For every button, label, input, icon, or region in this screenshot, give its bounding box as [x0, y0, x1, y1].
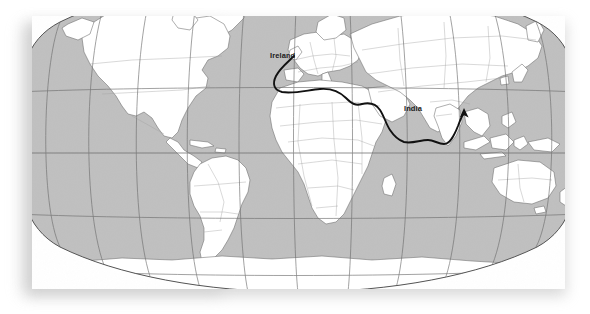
map-card: Ireland India — [32, 16, 565, 289]
map-label-ireland: Ireland — [270, 52, 295, 60]
landmass-caribbean-hispaniola — [215, 148, 226, 153]
screenshot-canvas: Ireland India — [0, 0, 590, 314]
world-map[interactable] — [32, 16, 565, 289]
map-label-india: India — [404, 105, 422, 113]
